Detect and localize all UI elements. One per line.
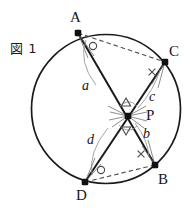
angle-mark-cross-B <box>138 151 145 158</box>
figure-number-label: 図 1 <box>10 38 37 57</box>
vertex-dot-B <box>152 162 159 169</box>
point-label-D: D <box>76 188 87 203</box>
segment-label-b: b <box>143 127 150 141</box>
segment-label-d: d <box>87 133 94 147</box>
segment-label-c: c <box>149 90 155 104</box>
vertex-dot-A <box>75 30 82 37</box>
point-label-P: P <box>146 108 154 123</box>
vertex-dot-D <box>82 179 89 186</box>
vertex-dot-P <box>125 113 132 120</box>
angle-mark-cross-C <box>149 69 156 76</box>
point-label-B: B <box>158 172 168 187</box>
figure-container: 図 1 A C P B D a c b d <box>0 0 190 213</box>
circumcircle <box>32 35 181 184</box>
point-label-A: A <box>70 10 81 25</box>
point-label-C: C <box>169 44 179 59</box>
segment-label-a: a <box>82 79 89 93</box>
angle-mark-circle-A <box>89 42 96 49</box>
vertex-dot-C <box>162 59 169 66</box>
angle-mark-circle-D <box>97 166 104 173</box>
chord-AC <box>78 33 165 62</box>
